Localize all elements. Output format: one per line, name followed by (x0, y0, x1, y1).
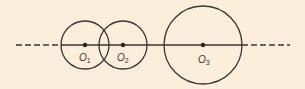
label-o3: O3 (198, 55, 210, 66)
label-o2-letter: O (117, 52, 125, 63)
center-point-o3 (201, 43, 205, 47)
label-o2-subscript: 2 (125, 57, 129, 64)
label-o1-subscript: 1 (87, 57, 91, 64)
label-o3-letter: O (198, 54, 206, 65)
center-point-o1 (83, 43, 87, 47)
label-o2: O2 (117, 53, 129, 64)
label-o1-letter: O (79, 52, 87, 63)
label-o3-subscript: 3 (206, 59, 210, 66)
center-point-o2 (121, 43, 125, 47)
circles-diagram: O1 O2 O3 (0, 0, 305, 89)
diagram-canvas (0, 0, 305, 89)
label-o1: O1 (79, 53, 91, 64)
